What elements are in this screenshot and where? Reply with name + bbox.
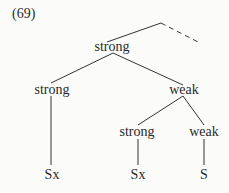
edge-weak-weak: [183, 96, 204, 125]
node-root: strong: [95, 40, 130, 54]
node-right-weak: weak: [189, 125, 219, 139]
node-left: strong: [35, 83, 70, 97]
leaf-right-strong: Sx: [131, 168, 146, 182]
node-right-strong: strong: [120, 125, 155, 139]
edge-weak-strong: [138, 96, 183, 125]
node-right: weak: [169, 83, 199, 97]
leaf-left: Sx: [45, 168, 60, 182]
edge-root-right: [113, 53, 183, 85]
edge-root-left: [51, 53, 113, 83]
edge-apex-dashed: [161, 23, 200, 43]
leaf-right-weak: S: [200, 168, 208, 182]
